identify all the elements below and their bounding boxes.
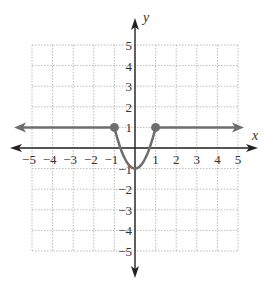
y-tick-label: −4 [118,223,132,238]
x-axis-label: x [251,128,259,143]
y-tick-label: −2 [118,182,132,197]
x-tick-label: 5 [235,152,242,167]
x-tick-label: −4 [43,152,57,167]
y-tick-label: 2 [126,100,133,115]
x-tick-label: 1 [152,152,159,167]
graph: −5−4−3−2−11234554321−1−2−3−4−5 x y [0,0,266,285]
closed-dot [151,123,160,132]
x-tick-label: 4 [214,152,221,167]
y-tick-label: −1 [118,162,132,177]
x-tick-label: −1 [104,152,118,167]
y-tick-label: 3 [126,79,133,94]
axes [10,18,258,278]
x-tick-label: −2 [84,152,98,167]
y-tick-label: 4 [126,59,133,74]
x-tick-label: 2 [173,152,180,167]
x-tick-label: −3 [63,152,77,167]
y-tick-label: 1 [126,120,133,135]
y-tick-label: 5 [126,38,133,53]
closed-dot [110,123,119,132]
x-tick-label: 3 [194,152,201,167]
x-tick-label: −5 [22,152,36,167]
y-tick-label: −5 [118,244,132,259]
y-tick-label: −3 [118,203,132,218]
y-axis-label: y [141,10,150,25]
